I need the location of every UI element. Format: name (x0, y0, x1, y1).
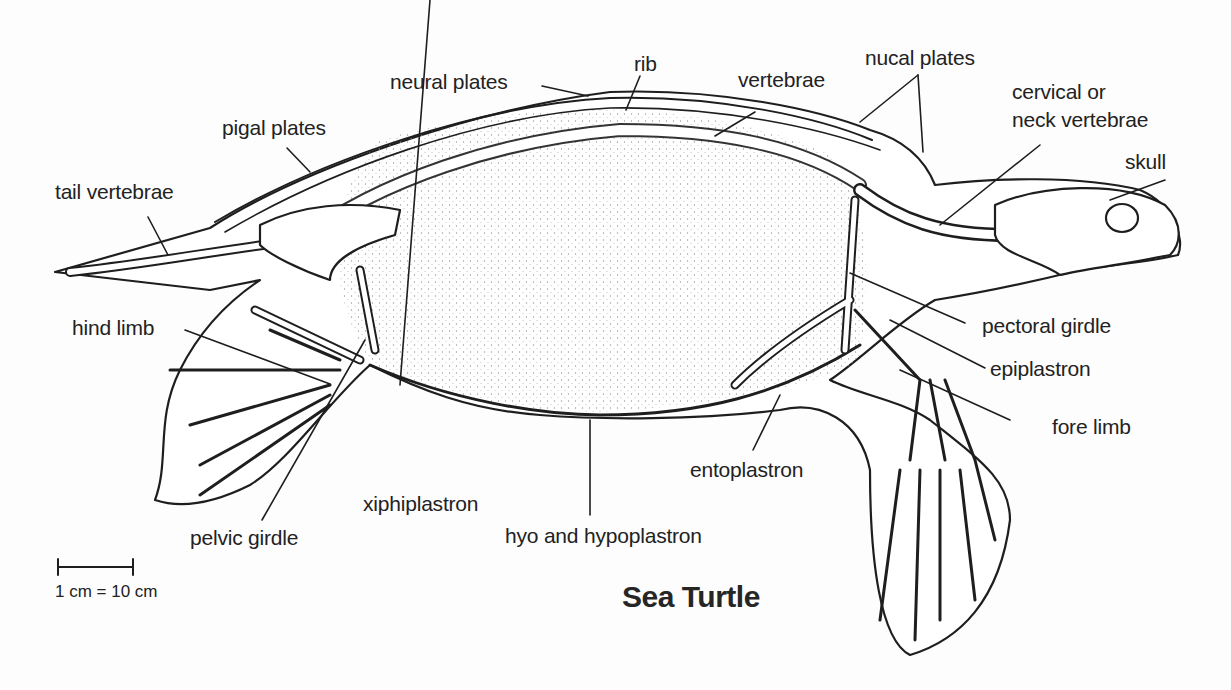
label-neural-plates: neural plates (390, 70, 508, 94)
label-rib: rib (634, 52, 657, 76)
label-epiplastron: epiplastron (990, 357, 1091, 381)
label-cervical-line2: neck vertebrae (1012, 108, 1148, 132)
label-hyo-and-hypoplastron: hyo and hypoplastron (505, 524, 702, 548)
label-pigal-plates: pigal plates (222, 116, 326, 140)
label-nucal-plates: nucal plates (865, 46, 975, 70)
label-entoplastron: entoplastron (690, 458, 803, 482)
label-tail-vertebrae: tail vertebrae (55, 180, 174, 204)
label-xiphiplastron: xiphiplastron (363, 492, 478, 516)
label-hind-limb: hind limb (72, 316, 154, 340)
scale-label: 1 cm = 10 cm (55, 582, 158, 602)
label-pectoral-girdle: pectoral girdle (982, 314, 1111, 338)
scale-bar (58, 559, 133, 575)
diagram-title: Sea Turtle (622, 580, 760, 614)
label-pelvic-girdle: pelvic girdle (190, 526, 298, 550)
label-cervical-line1: cervical or (1012, 80, 1106, 104)
label-fore-limb: fore limb (1052, 415, 1131, 439)
label-skull: skull (1125, 150, 1166, 174)
label-vertebrae: vertebrae (738, 68, 825, 92)
